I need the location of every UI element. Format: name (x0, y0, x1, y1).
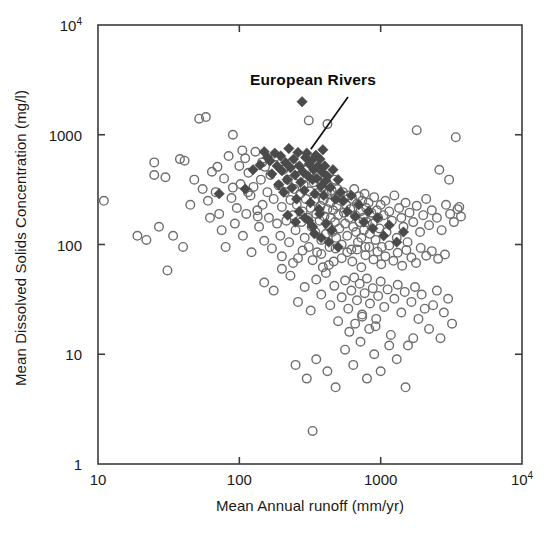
y-tick-label: 1000 (0, 126, 82, 143)
data-point-circle (285, 238, 294, 247)
data-point-circle (300, 234, 309, 243)
data-point-circle (268, 244, 277, 253)
data-point-circle (445, 175, 454, 184)
data-point-diamond (284, 143, 294, 153)
data-point-circle (326, 301, 335, 310)
data-point-circle (429, 301, 438, 310)
data-point-circle (371, 236, 380, 245)
data-point-circle (221, 243, 230, 252)
data-point-circle (363, 374, 372, 383)
data-point-circle (304, 116, 313, 125)
axis-ticks (98, 25, 522, 464)
data-point-circle (412, 259, 421, 268)
data-point-circle (444, 295, 453, 304)
european-rivers-annotation: European Rivers (250, 71, 376, 89)
data-point-circle (186, 201, 195, 210)
data-point-circle (385, 341, 394, 350)
data-point-circle (286, 271, 295, 280)
data-point-circle (405, 208, 414, 217)
data-point-circle (278, 252, 287, 261)
data-point-circle (356, 337, 365, 346)
data-point-circle (414, 315, 423, 324)
y-tick-label: 10 (0, 346, 82, 363)
data-point-circle (361, 251, 370, 260)
data-point-circle (440, 308, 449, 317)
data-point-circle (425, 325, 434, 334)
data-point-circle (306, 306, 315, 315)
data-point-circle (229, 130, 238, 139)
data-point-circle (337, 293, 346, 302)
data-point-circle (353, 296, 362, 305)
data-point-circle (389, 257, 398, 266)
data-point-circle (397, 308, 406, 317)
data-series-european-rivers (214, 97, 409, 253)
scatter-plot-figure: Mean Dissolved Solids Concentration (mg/… (0, 0, 551, 533)
data-point-circle (425, 221, 434, 230)
data-point-circle (238, 146, 247, 155)
data-point-circle (390, 295, 399, 304)
data-point-circle (308, 427, 317, 436)
data-point-circle (357, 263, 366, 272)
x-tick-label: 104 (511, 471, 533, 488)
data-point-circle (161, 173, 170, 182)
data-point-circle (220, 174, 229, 183)
annotation-leader-line (311, 97, 348, 149)
data-point-circle (360, 289, 369, 298)
data-point-circle (347, 286, 356, 295)
data-point-circle (163, 266, 172, 275)
data-point-circle (422, 195, 431, 204)
data-point-circle (302, 374, 311, 383)
data-point-diamond (333, 242, 343, 252)
x-tick-label: 10 (90, 471, 107, 488)
data-point-circle (401, 383, 410, 392)
data-point-circle (227, 194, 236, 203)
y-tick-label: 1 (0, 456, 82, 473)
x-tick-label: 100 (227, 471, 252, 488)
data-point-circle (179, 243, 188, 252)
data-point-circle (380, 303, 389, 312)
data-point-circle (235, 162, 244, 171)
data-point-circle (403, 238, 412, 247)
data-point-circle (412, 126, 421, 135)
data-point-circle (217, 226, 226, 235)
data-point-circle (377, 260, 386, 269)
data-point-circle (381, 252, 390, 261)
data-point-circle (427, 247, 436, 256)
plot-frame (98, 25, 522, 464)
data-point-circle (213, 163, 222, 172)
data-point-circle (150, 171, 159, 180)
data-point-circle (341, 219, 350, 228)
data-point-circle (142, 236, 151, 245)
data-point-circle (401, 198, 410, 207)
caption-fragment (36, 520, 186, 529)
data-point-circle (419, 211, 428, 220)
data-point-circle (294, 298, 303, 307)
data-point-circle (412, 202, 421, 211)
data-point-circle (433, 286, 442, 295)
data-point-circle (253, 212, 262, 221)
data-point-diamond (384, 220, 394, 230)
data-point-circle (169, 232, 178, 241)
data-point-circle (393, 280, 402, 289)
data-point-circle (249, 183, 258, 192)
data-point-circle (416, 228, 425, 237)
data-point-circle (233, 204, 242, 213)
data-point-circle (437, 226, 446, 235)
data-point-circle (366, 299, 375, 308)
data-point-circle (457, 212, 466, 221)
data-point-circle (330, 282, 339, 291)
data-point-circle (289, 259, 298, 268)
data-point-circle (451, 133, 460, 142)
data-point-circle (155, 222, 164, 231)
data-point-circle (442, 201, 451, 210)
data-point-circle (369, 284, 378, 293)
data-point-circle (341, 345, 350, 354)
data-point-circle (100, 197, 109, 206)
x-tick-label: 1000 (364, 471, 397, 488)
data-point-circle (376, 367, 385, 376)
data-point-circle (208, 167, 217, 176)
data-point-circle (257, 175, 266, 184)
x-axis-title: Mean Annual runoff (mm/yr) (98, 497, 522, 514)
data-point-circle (190, 175, 199, 184)
data-point-circle (242, 210, 251, 219)
